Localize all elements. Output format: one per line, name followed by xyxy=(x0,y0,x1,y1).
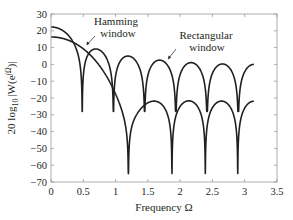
hamming-annotation: Hamming window xyxy=(87,15,139,46)
y-tick-label: 30 xyxy=(37,9,48,20)
frequency-response-chart: 00.511.522.533.5 3020100−10−20−30−40−50−… xyxy=(0,0,293,220)
x-tick-label: 2 xyxy=(178,186,183,197)
x-tick-label: 1.5 xyxy=(141,186,154,197)
rectangular-annotation: Rectangular window xyxy=(168,29,233,60)
y-tick-label: −40 xyxy=(31,126,47,137)
x-tick-labels: 00.511.522.533.5 xyxy=(48,186,283,197)
svg-text:Hamming: Hamming xyxy=(94,15,138,27)
svg-text:window: window xyxy=(189,41,225,53)
x-tick-label: 3.5 xyxy=(270,186,283,197)
arrow-icon xyxy=(169,49,176,58)
x-tick-label: 2.5 xyxy=(206,186,219,197)
y-tick-label: −60 xyxy=(31,160,47,171)
x-tick-label: 3 xyxy=(242,186,247,197)
svg-text:20 log10|W(ejΩ)|: 20 log10|W(ejΩ)| xyxy=(4,62,20,135)
svg-text:window: window xyxy=(100,27,136,39)
y-tick-label: −50 xyxy=(31,143,47,154)
svg-text:Rectangular: Rectangular xyxy=(179,29,232,41)
y-tick-labels: 3020100−10−20−30−40−50−60−70 xyxy=(31,9,47,188)
y-tick-label: −30 xyxy=(31,109,47,120)
x-tick-label: 0 xyxy=(48,186,53,197)
plot-frame xyxy=(51,14,277,182)
axis-ticks xyxy=(51,14,277,182)
x-tick-label: 0.5 xyxy=(77,186,90,197)
y-tick-label: 20 xyxy=(37,25,48,36)
y-tick-label: −20 xyxy=(31,93,47,104)
y-tick-label: −70 xyxy=(31,177,47,188)
y-tick-label: 0 xyxy=(42,59,47,70)
y-tick-label: 10 xyxy=(37,42,48,53)
arrow-icon xyxy=(88,36,96,44)
x-tick-label: 1 xyxy=(113,186,118,197)
y-tick-label: −10 xyxy=(31,76,47,87)
x-axis-label: Frequency Ω xyxy=(135,201,192,213)
y-axis-label: 20 log10|W(ejΩ)| xyxy=(4,62,20,135)
